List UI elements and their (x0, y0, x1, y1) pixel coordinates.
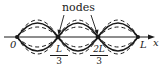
nodes-label: nodes (62, 2, 95, 13)
standing-wave-diagram: nodes x 0 L L 3 2L 3 (0, 0, 162, 73)
origin-label: 0 (10, 40, 16, 50)
node-pointer-arrows (59, 15, 97, 33)
node-dot (56, 35, 61, 40)
node-label-two-thirds: 2L 3 (90, 45, 108, 66)
node-dot (96, 35, 101, 40)
fraction-denominator: 3 (90, 56, 108, 66)
fraction-denominator: 3 (50, 56, 68, 66)
x-axis-label: x (153, 38, 159, 48)
length-label: L (140, 40, 147, 50)
fraction-numerator: L (50, 45, 68, 56)
node-label-one-third: L 3 (50, 45, 68, 66)
fraction-numerator: 2L (90, 45, 108, 56)
